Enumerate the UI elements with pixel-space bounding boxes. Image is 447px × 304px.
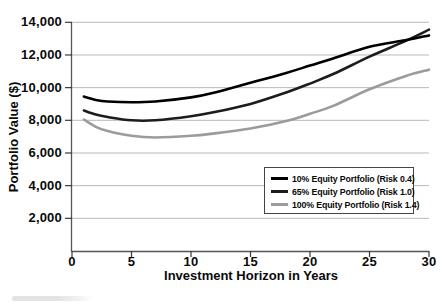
y-tick-label: 14,000	[0, 15, 62, 29]
series-line-0	[84, 35, 429, 102]
line-swatch-100pct	[271, 203, 288, 206]
x-tick-label: 5	[115, 255, 149, 269]
cropped-caption-remnant	[12, 296, 94, 301]
legend-label: 65% Equity Portfolio (Risk 1.0)	[292, 187, 414, 197]
portfolio-value-chart: Portfolio Value ($) Investment Horizon i…	[0, 0, 447, 304]
x-tick-label: 0	[55, 255, 89, 269]
y-tick-label: 4,000	[0, 179, 62, 193]
x-axis-title: Investment Horizon in Years	[164, 268, 338, 283]
y-tick-label: 8,000	[0, 113, 62, 127]
legend-label: 100% Equity Portfolio (Risk 1.4)	[292, 200, 419, 210]
y-tick-label: 12,000	[0, 48, 62, 62]
y-axis-title: Portfolio Value ($)	[6, 82, 21, 193]
x-tick-label: 15	[234, 255, 268, 269]
y-tick-label: 2,000	[0, 211, 62, 225]
x-tick-label: 10	[174, 255, 208, 269]
y-tick-label: 6,000	[0, 146, 62, 160]
line-swatch-10pct	[271, 177, 288, 180]
legend: 10% Equity Portfolio (Risk 0.4) 65% Equi…	[264, 167, 414, 214]
legend-item: 10% Equity Portfolio (Risk 0.4)	[271, 172, 411, 185]
line-swatch-65pct	[271, 190, 288, 193]
x-tick-label: 20	[293, 255, 327, 269]
legend-item: 65% Equity Portfolio (Risk 1.0)	[271, 185, 411, 198]
y-tick-label: 10,000	[0, 81, 62, 95]
series-line-1	[84, 30, 429, 121]
x-tick-label: 30	[412, 255, 446, 269]
legend-item: 100% Equity Portfolio (Risk 1.4)	[271, 198, 411, 211]
x-tick-label: 25	[353, 255, 387, 269]
legend-label: 10% Equity Portfolio (Risk 0.4)	[292, 174, 414, 184]
